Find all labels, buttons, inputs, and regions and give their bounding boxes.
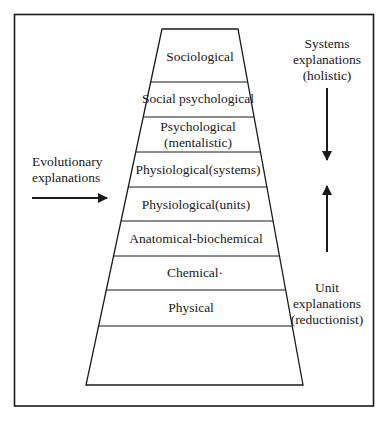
unit-explanations-line2: explanations [293,296,361,312]
unit-explanations-line3: (reductionist) [291,312,364,328]
systems-explanations-line1: Systems [304,36,349,52]
layer-sociological: Sociological [166,49,234,65]
systems-explanations-line3: (holistic) [303,68,352,84]
evolutionary-explanations-line2: explanations [32,170,100,186]
layer-physical: Physical [168,300,214,316]
layer-chemical: Chemical· [167,265,223,281]
evolutionary-explanations-line1: Evolutionary [32,154,103,170]
layer-physiological-systems: Physiological(systems) [135,162,260,178]
layer-psychological-subtitle: (mentalistic) [164,135,232,151]
layer-psychological: Psychological [160,119,236,135]
systems-explanations-line2: explanations [293,52,361,68]
layer-anatomical-biochemical: Anatomical-biochemical [129,231,262,247]
layer-physiological-units: Physiological(units) [142,197,251,213]
unit-explanations-line1: Unit [315,280,339,296]
layer-social-psychological: Social psychological [142,91,254,107]
